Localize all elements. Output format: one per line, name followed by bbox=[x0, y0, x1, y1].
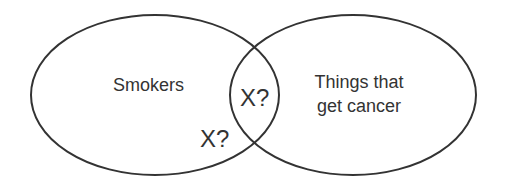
cancer-label: Things that get cancer bbox=[309, 70, 409, 118]
smokers-label: Smokers bbox=[113, 76, 184, 94]
cancer-label-line-2: get cancer bbox=[309, 94, 409, 118]
cancer-label-line-1: Things that bbox=[309, 70, 409, 94]
smokers-only-annotation: X? bbox=[200, 127, 229, 151]
intersection-annotation: X? bbox=[240, 86, 269, 110]
venn-diagram: Smokers Things that get cancer X? X? bbox=[0, 0, 506, 185]
